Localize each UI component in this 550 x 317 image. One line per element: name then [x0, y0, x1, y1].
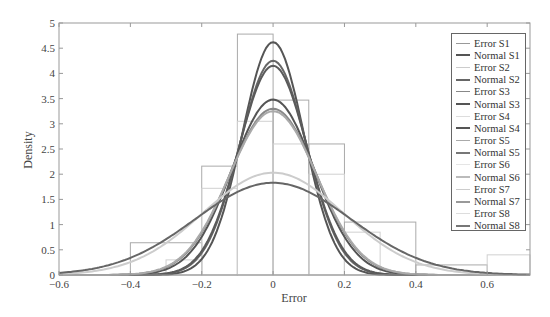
x-tick-label: 0.4	[409, 278, 423, 290]
x-tick-label: −0.2	[192, 278, 212, 290]
x-tick-label: 0.6	[480, 278, 494, 290]
legend-label: Normal S3	[474, 99, 520, 110]
legend-item: Error S8	[456, 208, 525, 220]
y-tick-label: 3	[50, 118, 56, 130]
legend-swatch-icon	[456, 79, 470, 81]
legend-label: Error S2	[474, 62, 510, 73]
legend-swatch-icon	[456, 225, 470, 227]
legend-label: Error S3	[474, 86, 510, 97]
legend-item: Normal S5	[456, 147, 525, 159]
histogram-bar	[237, 34, 273, 275]
y-tick-label: 2.5	[41, 143, 55, 155]
legend-label: Error S1	[474, 38, 510, 49]
legend-swatch-icon	[456, 140, 470, 141]
legend-label: Normal S6	[474, 172, 520, 183]
legend-label: Error S6	[474, 159, 510, 170]
legend-item: Normal S8	[456, 220, 525, 232]
x-tick-label: −0.4	[120, 278, 140, 290]
legend-swatch-icon	[456, 91, 470, 92]
y-tick-label: 2	[50, 168, 56, 180]
legend-item: Normal S4	[456, 122, 525, 134]
legend-swatch-icon	[456, 103, 470, 105]
histogram-bar	[273, 144, 309, 275]
legend-label: Normal S4	[474, 123, 520, 134]
legend-swatch-icon	[456, 164, 470, 165]
legend-item: Error S4	[456, 110, 525, 122]
x-tick-label: −0.6	[49, 278, 69, 290]
legend-swatch-icon	[456, 43, 470, 44]
legend-label: Error S8	[474, 208, 510, 219]
x-tick-label: 0.2	[338, 278, 352, 290]
y-tick-label: 1	[50, 219, 56, 231]
y-tick-label: 4	[50, 67, 56, 79]
legend-item: Error S1	[456, 37, 525, 49]
histogram-bar	[273, 100, 309, 275]
legend-item: Normal S6	[456, 171, 525, 183]
legend-swatch-icon	[456, 152, 470, 154]
y-axis-label: Density	[21, 131, 35, 168]
legend-item: Normal S1	[456, 49, 525, 61]
legend-swatch-icon	[456, 127, 470, 129]
y-tick-label: 5	[50, 17, 56, 29]
legend-label: Normal S5	[474, 147, 520, 158]
y-tick-label: 3.5	[41, 93, 55, 105]
legend-item: Error S5	[456, 135, 525, 147]
x-axis-ticks: −0.6−0.4−0.200.20.40.6	[49, 23, 495, 290]
y-tick-label: 1.5	[41, 193, 55, 205]
legend-label: Error S7	[474, 184, 510, 195]
legend-item: Error S6	[456, 159, 525, 171]
legend-label: Error S5	[474, 135, 510, 146]
legend-label: Error S4	[474, 111, 510, 122]
legend-label: Normal S7	[474, 196, 520, 207]
y-tick-label: 4.5	[41, 42, 55, 54]
legend-swatch-icon	[456, 201, 470, 203]
x-tick-label: 0	[270, 278, 276, 290]
legend-item: Error S7	[456, 183, 525, 195]
legend-swatch-icon	[456, 54, 470, 56]
legend-item: Normal S3	[456, 98, 525, 110]
histogram-bar	[487, 255, 530, 275]
legend-swatch-icon	[456, 176, 470, 178]
legend-swatch-icon	[456, 213, 470, 214]
legend-item: Normal S2	[456, 74, 525, 86]
legend-label: Normal S8	[474, 220, 520, 231]
legend-swatch-icon	[456, 67, 470, 68]
legend-item: Error S3	[456, 86, 525, 98]
legend-swatch-icon	[456, 189, 470, 190]
legend-label: Normal S1	[474, 50, 520, 61]
legend-item: Error S2	[456, 61, 525, 73]
y-tick-label: 0.5	[41, 244, 55, 256]
legend-item: Normal S7	[456, 195, 525, 207]
x-axis-label: Error	[281, 291, 306, 305]
legend-swatch-icon	[456, 116, 470, 117]
legend-label: Normal S2	[474, 74, 520, 85]
chart-legend: Error S1Normal S1Error S2Normal S2Error …	[451, 33, 526, 231]
